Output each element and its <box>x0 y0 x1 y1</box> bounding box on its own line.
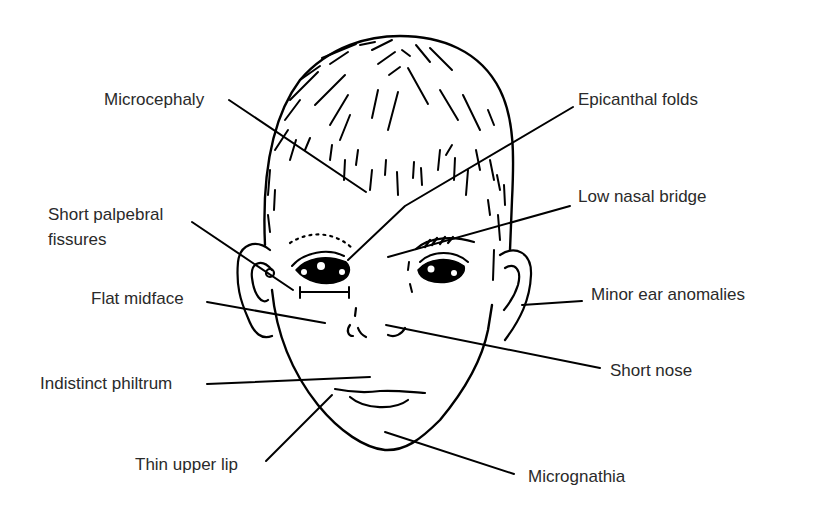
eyes <box>292 252 468 292</box>
label-microcephaly: Microcephaly <box>104 90 204 110</box>
label-epicanthal-folds: Epicanthal folds <box>578 90 698 110</box>
face-diagram: Microcephaly Epicanthal folds Short palp… <box>0 0 816 511</box>
leader-short-nose <box>386 325 600 368</box>
label-short-nose: Short nose <box>610 361 692 381</box>
palpebral-measure-bar <box>300 287 349 298</box>
head-outline <box>264 36 513 450</box>
label-low-nasal-bridge: Low nasal bridge <box>578 187 707 207</box>
mouth <box>335 389 425 407</box>
leader-micrognathia <box>385 432 514 474</box>
nose <box>348 308 405 337</box>
leader-low-nasal-bridge <box>388 206 570 257</box>
right-ear <box>500 251 531 340</box>
leader-flat-midface <box>207 302 325 323</box>
label-thin-upper-lip: Thin upper lip <box>135 455 238 475</box>
leader-short-palpebral <box>192 222 293 290</box>
left-ear <box>237 244 274 337</box>
label-micrognathia: Micrognathia <box>528 467 625 487</box>
face-drawing <box>0 0 816 511</box>
label-flat-midface: Flat midface <box>91 289 184 309</box>
eyebrows <box>290 234 474 249</box>
leader-microcephaly <box>229 100 366 192</box>
label-short-palpebral-line2: fissures <box>48 230 107 250</box>
label-indistinct-philtrum: Indistinct philtrum <box>40 374 172 394</box>
leader-minor-ear <box>522 301 582 305</box>
leader-thin-upper-lip <box>266 395 332 461</box>
label-short-palpebral-line1: Short palpebral <box>48 205 163 225</box>
leader-indistinct-philtrum <box>207 377 370 384</box>
label-minor-ear-anomalies: Minor ear anomalies <box>591 285 745 305</box>
